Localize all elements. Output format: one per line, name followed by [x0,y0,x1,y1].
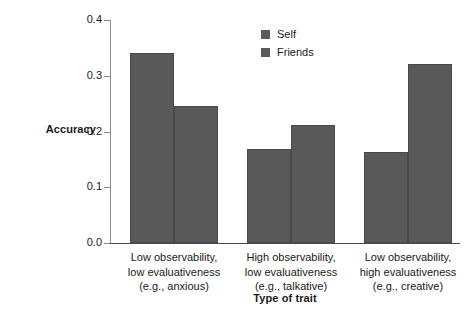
x-axis-line [110,243,460,244]
bar-friends[interactable] [291,125,335,243]
chart-legend: SelfFriends [261,27,314,63]
y-axis-tick-label: 0.3 [74,70,102,81]
y-axis-tick-mark [104,187,110,188]
y-axis-tick-labels: 0.00.10.20.30.4 [72,0,102,313]
y-axis-tick-mark [104,132,110,133]
legend-swatch-icon [261,48,270,57]
y-axis-tick-label: 0.1 [74,181,102,192]
legend-entry[interactable]: Friends [261,45,314,60]
bar-self[interactable] [247,149,291,243]
legend-label: Friends [277,47,314,58]
x-axis-title: Type of trait [110,292,460,304]
legend-entry[interactable]: Self [261,27,314,42]
bar-group [364,20,452,243]
bar-chart-figure: Accuracy 0.00.10.20.30.4 Low observabili… [0,0,474,313]
legend-label: Self [277,29,296,40]
bar-self[interactable] [364,152,408,243]
bar-group [130,20,218,243]
y-axis-tick-label: 0.0 [74,237,102,248]
bar-friends[interactable] [174,106,218,243]
legend-swatch-icon [261,30,270,39]
x-axis-tick-label: Low observability, high evaluativeness (… [333,250,474,294]
bar-self[interactable] [130,53,174,243]
bar-friends[interactable] [408,64,452,244]
y-axis-tick-mark [104,76,110,77]
y-axis-tick-mark [104,20,110,21]
y-axis-tick-label: 0.2 [74,126,102,137]
y-axis-tick-label: 0.4 [74,14,102,25]
y-axis-tick-mark [104,243,110,244]
